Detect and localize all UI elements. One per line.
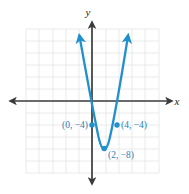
label-vertex-2-neg8: (2, −8) <box>108 150 134 161</box>
x-axis-label: x <box>174 95 180 107</box>
label-point-0-neg4: (0, −4) <box>62 120 88 131</box>
y-axis-label: y <box>85 6 91 18</box>
data-point-0-neg4 <box>89 122 94 127</box>
label-point-4-neg4: (4, −4) <box>121 120 147 131</box>
coordinate-plane: y x (0, −4) (4, −4) (2, −8) <box>0 0 189 194</box>
data-point-4-neg4 <box>114 122 119 127</box>
graph-figure: y x (0, −4) (4, −4) (2, −8) <box>0 0 189 194</box>
data-point-vertex <box>102 146 107 151</box>
